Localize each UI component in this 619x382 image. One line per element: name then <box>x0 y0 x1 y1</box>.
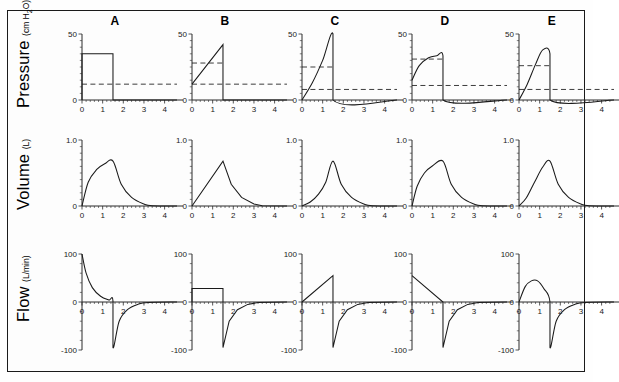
svg-text:2: 2 <box>341 105 346 114</box>
svg-text:0: 0 <box>410 211 415 220</box>
row-label-volume-units: (L) <box>21 139 31 149</box>
svg-text:0: 0 <box>73 96 78 105</box>
svg-text:1: 1 <box>320 307 325 316</box>
series-pressure <box>302 33 397 105</box>
svg-text:1: 1 <box>430 307 435 316</box>
svg-text:1: 1 <box>537 105 542 114</box>
svg-text:2: 2 <box>121 105 126 114</box>
svg-text:3: 3 <box>472 307 477 316</box>
svg-text:1.0: 1.0 <box>176 136 188 145</box>
svg-text:3: 3 <box>472 105 477 114</box>
svg-text:2: 2 <box>231 211 236 220</box>
row-label-flow-name: Flow <box>14 286 32 322</box>
series-flow <box>192 289 287 348</box>
svg-text:0: 0 <box>73 202 78 211</box>
svg-text:0: 0 <box>80 105 85 114</box>
series-volume <box>302 161 397 206</box>
svg-text:2: 2 <box>558 211 563 220</box>
svg-text:0: 0 <box>293 96 298 105</box>
plot-flow-c: 01234-1000100 <box>280 242 402 360</box>
series-volume <box>82 160 177 206</box>
svg-text:1: 1 <box>210 105 215 114</box>
svg-text:50: 50 <box>68 30 77 39</box>
svg-text:3: 3 <box>252 307 257 316</box>
svg-text:4: 4 <box>162 307 167 316</box>
svg-text:-100: -100 <box>391 346 408 355</box>
series-volume <box>519 160 614 206</box>
series-pressure <box>82 54 177 100</box>
svg-text:1: 1 <box>320 211 325 220</box>
svg-text:3: 3 <box>252 105 257 114</box>
svg-text:2: 2 <box>341 211 346 220</box>
svg-text:0: 0 <box>183 298 188 307</box>
svg-text:4: 4 <box>162 211 167 220</box>
plot-pressure-e: 01234050 <box>497 22 619 118</box>
svg-text:3: 3 <box>579 307 584 316</box>
svg-text:50: 50 <box>288 30 297 39</box>
svg-text:4: 4 <box>382 307 387 316</box>
series-pressure <box>192 45 287 100</box>
row-label-pressure: Pressure (cm H2O) <box>14 0 34 108</box>
svg-text:100: 100 <box>174 250 188 259</box>
plot-volume-e: 0123401.0 <box>497 128 619 224</box>
svg-text:-100: -100 <box>498 346 515 355</box>
plot-flow-d: 01234-1000100 <box>390 242 512 360</box>
svg-text:0: 0 <box>410 105 415 114</box>
svg-text:0: 0 <box>510 202 515 211</box>
plot-pressure-b: 01234050 <box>170 22 292 118</box>
svg-text:3: 3 <box>579 211 584 220</box>
svg-text:0: 0 <box>517 211 522 220</box>
plot-volume-a: 0123401.0 <box>60 128 182 224</box>
svg-text:1: 1 <box>320 105 325 114</box>
svg-text:3: 3 <box>142 211 147 220</box>
svg-text:2: 2 <box>231 105 236 114</box>
row-label-flow-units: (L/min) <box>21 255 31 281</box>
svg-text:0: 0 <box>300 105 305 114</box>
svg-text:50: 50 <box>398 30 407 39</box>
svg-text:0: 0 <box>183 96 188 105</box>
svg-text:100: 100 <box>394 250 408 259</box>
svg-text:0: 0 <box>403 202 408 211</box>
svg-text:100: 100 <box>64 250 78 259</box>
row-label-pressure-name: Pressure <box>14 40 32 108</box>
svg-text:1: 1 <box>100 307 105 316</box>
row-label-volume-name: Volume <box>14 154 32 210</box>
svg-text:4: 4 <box>382 211 387 220</box>
plot-pressure-d: 01234050 <box>390 22 512 118</box>
series-volume <box>412 160 507 206</box>
svg-text:0: 0 <box>517 105 522 114</box>
series-pressure <box>412 52 507 103</box>
series-volume <box>192 161 287 206</box>
svg-text:3: 3 <box>142 307 147 316</box>
series-flow <box>82 254 177 348</box>
plot-pressure-c: 01234050 <box>280 22 402 118</box>
svg-text:3: 3 <box>472 211 477 220</box>
svg-text:1: 1 <box>210 307 215 316</box>
svg-text:0: 0 <box>293 298 298 307</box>
svg-text:1: 1 <box>430 211 435 220</box>
svg-text:2: 2 <box>451 211 456 220</box>
svg-text:1: 1 <box>100 211 105 220</box>
svg-text:0: 0 <box>190 211 195 220</box>
row-label-volume: Volume (L) <box>14 139 33 210</box>
plot-volume-c: 0123401.0 <box>280 128 402 224</box>
svg-text:50: 50 <box>178 30 187 39</box>
svg-text:1.0: 1.0 <box>286 136 298 145</box>
plot-volume-b: 0123401.0 <box>170 128 292 224</box>
svg-text:50: 50 <box>505 30 514 39</box>
svg-text:2: 2 <box>121 211 126 220</box>
svg-text:-100: -100 <box>61 346 78 355</box>
svg-text:0: 0 <box>80 211 85 220</box>
svg-text:1.0: 1.0 <box>503 136 515 145</box>
plot-flow-a: 01234-1000100 <box>60 242 182 360</box>
svg-text:0: 0 <box>300 211 305 220</box>
svg-text:4: 4 <box>272 211 277 220</box>
svg-text:1: 1 <box>537 211 542 220</box>
svg-text:1.0: 1.0 <box>66 136 78 145</box>
svg-text:1.0: 1.0 <box>396 136 408 145</box>
svg-text:0: 0 <box>510 96 515 105</box>
svg-text:0: 0 <box>510 298 515 307</box>
svg-text:1: 1 <box>100 105 105 114</box>
svg-text:4: 4 <box>599 211 604 220</box>
